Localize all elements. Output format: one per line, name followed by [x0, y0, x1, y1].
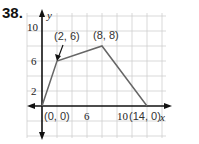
x-axis-arrow-left-icon: [27, 103, 35, 109]
point-label-0-0: (0, 0): [44, 110, 70, 122]
annotation-arrow-icon: [55, 45, 63, 61]
point-label-14-0: (14, 0): [129, 110, 161, 122]
point-label-2-6: (2, 6): [54, 30, 80, 42]
x-tick-10: 10: [117, 110, 129, 122]
y-axis-label: y: [46, 9, 52, 21]
y-tick-10: 10: [27, 21, 39, 33]
x-axis-arrow-right-icon: [164, 103, 172, 109]
x-tick-6: 6: [84, 110, 90, 122]
y-axis-arrow-up-icon: [39, 9, 45, 17]
coordinate-graph: 10 6 2 6 10 y x (2, 6) (8, 8) (0, 0) (14…: [0, 0, 199, 144]
y-tick-6: 6: [31, 55, 37, 67]
point-label-8-8: (8, 8): [93, 29, 119, 41]
y-tick-2: 2: [31, 85, 37, 97]
